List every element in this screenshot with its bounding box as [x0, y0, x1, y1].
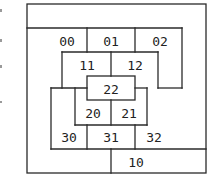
cell-30-label: 30 — [61, 130, 77, 145]
cell-01-label: 01 — [103, 34, 119, 49]
cell-32-label: 32 — [146, 130, 162, 145]
cell-21-label: 21 — [121, 106, 137, 121]
cell-31-label: 31 — [103, 130, 119, 145]
cell-02-label: 02 — [152, 34, 168, 49]
cell-00-label: 00 — [59, 34, 75, 49]
cell-11-label: 11 — [79, 58, 95, 73]
cell-22-label: 22 — [103, 82, 119, 97]
cell-12-label: 12 — [127, 58, 143, 73]
region-diagram: 00 01 02 11 12 22 20 21 30 31 32 10 — [0, 0, 216, 190]
cell-10-label: 10 — [128, 155, 144, 170]
left-edge-marks — [0, 9, 2, 103]
cell-20-label: 20 — [85, 106, 101, 121]
